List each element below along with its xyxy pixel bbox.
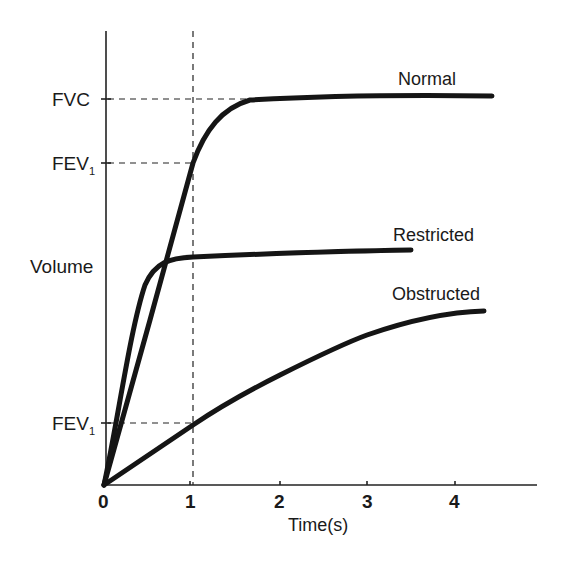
fev1-normal-label: FEV1 [52, 153, 95, 177]
fev1-obstructed-label: FEV1 [52, 413, 95, 437]
restricted-series-label: Restricted [393, 225, 474, 245]
x-tick-label-3: 3 [362, 491, 373, 512]
normal-series-label: Normal [398, 69, 456, 89]
obstructed-series-label: Obstructed [392, 284, 480, 304]
volume-axis-label: Volume [30, 256, 93, 277]
x-tick-label-2: 2 [274, 491, 285, 512]
x-tick-label-4: 4 [449, 491, 460, 512]
obstructed-curve [104, 311, 484, 485]
spirometry-chart: FVC FEV1 Volume FEV1 Normal Restricted O… [0, 0, 566, 562]
fvc-label: FVC [52, 89, 90, 110]
x-tick-label-0: 0 [98, 491, 109, 512]
restricted-curve [104, 250, 411, 485]
x-tick-label-1: 1 [185, 491, 196, 512]
time-axis-label: Time(s) [288, 515, 348, 535]
